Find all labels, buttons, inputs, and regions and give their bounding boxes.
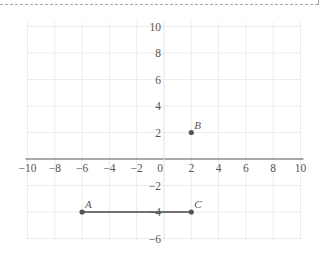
- point-label-C: C: [194, 198, 202, 210]
- y-tick-label: −6: [149, 233, 161, 245]
- y-tick-label: 6: [155, 74, 161, 86]
- point-label-B: B: [194, 119, 201, 131]
- x-tick-label: 8: [270, 162, 276, 174]
- x-tick-labels: −10−8−6−4−20246810: [19, 162, 307, 174]
- x-tick-label: 6: [243, 162, 249, 174]
- point-A: [80, 209, 85, 214]
- x-tick-label: −10: [19, 162, 37, 174]
- point-B: [189, 130, 194, 135]
- x-tick-label: −8: [49, 162, 61, 174]
- x-tick-label: 2: [188, 162, 194, 174]
- point-C: [189, 209, 194, 214]
- y-tick-label: 4: [155, 100, 161, 112]
- y-tick-label: 10: [150, 21, 162, 33]
- axes: [26, 22, 304, 241]
- x-tick-label: −2: [131, 162, 143, 174]
- x-tick-label: 10: [295, 162, 307, 174]
- point-label-A: A: [84, 198, 92, 210]
- y-tick-label: 2: [155, 127, 161, 139]
- x-tick-label: 0: [157, 162, 163, 174]
- coordinate-plane: −10−8−6−4−20246810 108642−2−4−6 ABC: [0, 0, 321, 263]
- x-tick-label: −6: [76, 162, 88, 174]
- y-tick-label: −2: [149, 180, 161, 192]
- x-tick-label: −4: [103, 162, 115, 174]
- y-tick-label: 8: [155, 47, 161, 59]
- x-tick-label: 4: [216, 162, 222, 174]
